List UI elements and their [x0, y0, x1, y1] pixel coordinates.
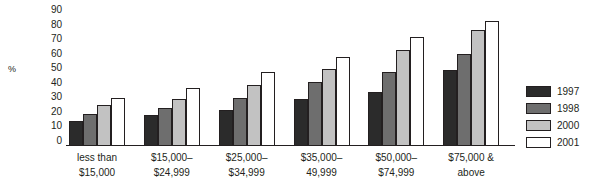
y-tick-label-60: 60 [36, 49, 62, 59]
legend-swatch-2001 [526, 137, 551, 148]
x-category-label-line: $24,999 [132, 165, 212, 180]
bar-2001-group-4 [336, 57, 350, 146]
x-axis-category-labels: less than$15,000$15,000–$24,999$25,000–$… [66, 150, 515, 190]
x-category-label-line: 49,999 [282, 165, 362, 180]
y-tick-label-0: 0 [36, 136, 62, 146]
bar-2001-group-1 [111, 98, 125, 146]
bar-1997-group-6 [443, 70, 457, 146]
legend-label-1997: 1997 [557, 86, 579, 97]
legend-swatch-1998 [526, 103, 551, 114]
bar-1998-group-5 [382, 72, 396, 146]
bar-group [69, 15, 131, 146]
x-category-label-line: $34,999 [207, 165, 287, 180]
bar-2001-group-5 [410, 37, 424, 146]
y-axis-title: % [8, 64, 16, 74]
y-axis-tick-labels: 9080706050403020100 [36, 10, 62, 146]
bar-1998-group-3 [233, 98, 247, 146]
x-category-label-line: $35,000– [282, 150, 362, 165]
x-category-label-2: $15,000–$24,999 [132, 150, 212, 180]
bar-1998-group-2 [158, 108, 172, 146]
legend-item-1997[interactable]: 1997 [526, 84, 586, 99]
x-category-label-3: $25,000–$34,999 [207, 150, 287, 180]
legend-item-2001[interactable]: 2001 [526, 135, 586, 150]
y-tick-label-30: 30 [36, 92, 62, 102]
bar-2000-group-5 [396, 50, 410, 146]
y-tick-label-10: 10 [36, 121, 62, 131]
bar-1998-group-1 [83, 114, 97, 146]
x-category-label-line: $50,000– [356, 150, 436, 165]
bar-2000-group-1 [97, 105, 111, 146]
legend-label-2000: 2000 [557, 120, 579, 131]
plot-area [66, 15, 515, 146]
bar-1997-group-3 [219, 110, 233, 146]
legend-swatch-1997 [526, 86, 551, 97]
bar-group [144, 15, 206, 146]
bar-1998-group-6 [457, 54, 471, 146]
x-category-label-line: $15,000– [132, 150, 212, 165]
legend-label-1998: 1998 [557, 103, 579, 114]
y-tick-label-90: 90 [36, 5, 62, 15]
x-category-label-6: $75,000 &above [431, 150, 511, 180]
x-category-label-line: $75,000 & [431, 150, 511, 165]
y-tick-label-80: 80 [36, 20, 62, 30]
bar-1997-group-5 [368, 92, 382, 146]
bar-2000-group-6 [471, 30, 485, 146]
y-tick-label-50: 50 [36, 63, 62, 73]
bar-2001-group-2 [186, 88, 200, 146]
legend-item-1998[interactable]: 1998 [526, 101, 586, 116]
x-category-label-line: $25,000– [207, 150, 287, 165]
bar-group [219, 15, 281, 146]
legend: 1997199820002001 [526, 84, 586, 152]
legend-label-2001: 2001 [557, 137, 579, 148]
bar-1997-group-4 [294, 99, 308, 146]
x-category-label-line: above [431, 165, 511, 180]
bar-2000-group-2 [172, 99, 186, 146]
legend-swatch-2000 [526, 120, 551, 131]
y-tick-label-70: 70 [36, 34, 62, 44]
bar-group [368, 15, 430, 146]
x-category-label-4: $35,000–49,999 [282, 150, 362, 180]
x-category-label-5: $50,000–$74,999 [356, 150, 436, 180]
x-category-label-line: less than [57, 150, 137, 165]
bar-group [294, 15, 356, 146]
x-category-label-1: less than$15,000 [57, 150, 137, 180]
bar-1997-group-2 [144, 115, 158, 146]
y-tick-label-40: 40 [36, 78, 62, 88]
legend-item-2000[interactable]: 2000 [526, 118, 586, 133]
bar-2001-group-3 [261, 72, 275, 146]
bar-1997-group-1 [69, 121, 83, 146]
x-category-label-line: $74,999 [356, 165, 436, 180]
y-tick-label-20: 20 [36, 107, 62, 117]
x-category-label-line: $15,000 [57, 165, 137, 180]
bar-chart: % 9080706050403020100 less than$15,000$1… [0, 0, 589, 194]
bar-2000-group-4 [322, 69, 336, 146]
bar-group [443, 15, 505, 146]
bar-1998-group-4 [308, 82, 322, 146]
bar-2001-group-6 [485, 21, 499, 146]
bar-2000-group-3 [247, 85, 261, 146]
